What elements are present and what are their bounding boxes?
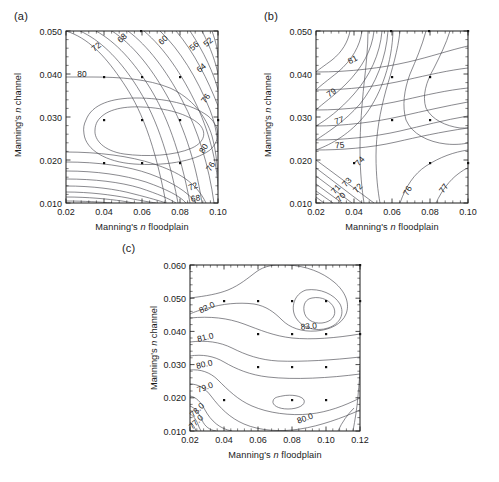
panel-b-contour-labels: 81 79 77 75 74 73 72 71 70 76 77 <box>325 53 451 204</box>
panel-b-xtick-0: 0.02 <box>307 207 325 217</box>
panel-c-x-tick-labels: 0.02 0.04 0.06 0.08 0.10 0.12 <box>181 435 369 445</box>
panel-c-clabel-80: 80.0 <box>195 357 214 371</box>
panel-b-clabel-81: 81 <box>346 53 359 66</box>
panel-a-xtick-2: 0.06 <box>133 207 151 217</box>
panel-b-x-axis-title-pre: Manning's <box>345 222 390 232</box>
panel-b-y-tick-labels: 0.050 0.040 0.030 0.020 0.010 <box>289 27 312 209</box>
panel-c-clabel-83: 83.0 <box>300 320 318 332</box>
panel-a-contours <box>66 31 218 203</box>
panel-a-y-tick-labels: 0.050 0.040 0.030 0.020 0.010 <box>39 27 62 209</box>
panel-c-ytick-3: 0.030 <box>163 360 186 370</box>
panel-a-xtick-0: 0.02 <box>57 207 75 217</box>
panel-b-ytick-2: 0.030 <box>289 113 312 123</box>
panel-c-xtick-0: 0.02 <box>181 435 199 445</box>
panel-c-ticks <box>190 265 360 431</box>
panel-a-ytick-1: 0.040 <box>39 70 62 80</box>
panel-b-clabel-76: 76 <box>401 184 414 197</box>
panel-c-clabel-80-lower: 80.0 <box>296 411 315 426</box>
panel-c-data-points <box>223 264 361 401</box>
panel-c-y-axis-title-pre: Manning's <box>149 346 159 390</box>
panel-b-clabel-75: 75 <box>335 140 346 151</box>
panel-b-x-tick-labels: 0.02 0.04 0.06 0.08 0.10 <box>307 207 477 217</box>
panel-a-ytick-3: 0.020 <box>39 156 62 166</box>
panel-c-xtick-3: 0.08 <box>283 435 301 445</box>
panel-b-plot: 0.050 0.040 0.030 0.020 0.010 0.02 0.04 … <box>250 0 499 240</box>
panel-a-clabel-64: 64 <box>194 61 208 75</box>
panel-b-xtick-4: 0.10 <box>459 207 477 217</box>
panel-a-x-axis-title-post: floodplain <box>146 222 189 232</box>
panel-a-clabel-80-left: 80 <box>77 69 87 79</box>
panel-b-ytick-0: 0.050 <box>289 27 312 37</box>
panel-a-contour-labels: 72 68 60 56 52 64 76 80 80 76 72 68 <box>77 31 217 204</box>
panel-c: (c) Manning's n channel 0.060 0.050 0.04… <box>110 238 400 468</box>
panel-c-y-axis-title-symbol: n <box>149 341 159 346</box>
panel-c-x-axis-title-post: floodplain <box>279 450 322 460</box>
panel-b-y-axis-title: Manning's n channel <box>263 59 273 171</box>
panel-a-y-axis-title-pre: Manning's <box>13 113 23 157</box>
panel-c-clabel-82: 82.0 <box>197 299 216 315</box>
panel-b-x-axis-title: Manning's n floodplain <box>316 222 468 232</box>
panel-b-x-axis-title-post: floodplain <box>396 222 439 232</box>
panel-a-y-axis-title-post: channel <box>13 73 23 108</box>
panel-a-xtick-3: 0.08 <box>171 207 189 217</box>
panel-c-contours <box>190 265 360 431</box>
panel-a-tag: (a) <box>14 10 28 22</box>
panel-b-y-axis-title-pre: Manning's <box>263 113 273 157</box>
panel-a-plot: 0.050 0.040 0.030 0.020 0.010 0.02 0.04 … <box>0 0 250 240</box>
panel-c-x-axis-title: Manning's n floodplain <box>190 450 360 460</box>
panel-c-contour-labels: 82.0 81.0 80.0 79.0 78.0 77.0 83.0 80.0 <box>187 299 318 431</box>
panel-a-ytick-2: 0.030 <box>39 113 62 123</box>
panel-c-ytick-1: 0.050 <box>163 294 186 304</box>
panel-a-ytick-0: 0.050 <box>39 27 62 37</box>
panel-b-ytick-3: 0.020 <box>289 156 312 166</box>
panel-c-xtick-5: 0.12 <box>351 435 369 445</box>
panel-c-ytick-4: 0.020 <box>163 393 186 403</box>
panel-b-xtick-3: 0.08 <box>421 207 439 217</box>
panel-a-x-axis-title-pre: Manning's <box>95 222 140 232</box>
panel-b-y-axis-title-symbol: n <box>263 108 273 113</box>
panel-b-ytick-1: 0.040 <box>289 70 312 80</box>
panel-a-clabel-68-lower: 68 <box>190 192 201 203</box>
panel-b: (b) Manning's n channel 0.050 0.040 0.03… <box>250 0 499 240</box>
panel-c-frame <box>190 265 360 431</box>
panel-a: (a) Manning's n channel 0.050 0.040 0.03… <box>0 0 250 240</box>
panel-c-y-axis-title-post: channel <box>149 306 159 341</box>
panel-c-xtick-4: 0.10 <box>317 435 335 445</box>
panel-a-xtick-4: 0.10 <box>209 207 227 217</box>
panel-c-y-tick-labels: 0.060 0.050 0.040 0.030 0.020 0.010 <box>163 261 186 437</box>
panel-a-xtick-1: 0.04 <box>95 207 113 217</box>
panel-c-tag: (c) <box>122 242 135 254</box>
panel-c-clabel-79: 79.0 <box>196 380 215 395</box>
panel-b-tag: (b) <box>264 10 278 22</box>
panel-a-clabel-76-upper: 76 <box>199 91 213 105</box>
panel-b-xtick-2: 0.06 <box>383 207 401 217</box>
panel-a-clabel-52: 52 <box>201 35 215 49</box>
panel-a-x-tick-labels: 0.02 0.04 0.06 0.08 0.10 <box>57 207 227 217</box>
panel-b-clabel-79: 79 <box>325 86 339 100</box>
panel-c-ytick-2: 0.040 <box>163 327 186 337</box>
panel-a-clabel-72-lower: 72 <box>187 180 200 193</box>
panel-c-y-axis-title: Manning's n channel <box>149 292 159 404</box>
panel-b-clabel-74: 74 <box>353 154 367 168</box>
panel-a-y-axis-title-symbol: n <box>13 108 23 113</box>
panel-a-clabel-72: 72 <box>89 40 103 54</box>
panel-c-ytick-0: 0.060 <box>163 261 186 271</box>
panel-c-xtick-1: 0.04 <box>215 435 233 445</box>
panel-b-clabel-77: 77 <box>333 114 345 126</box>
panel-a-y-axis-title: Manning's n channel <box>13 59 23 171</box>
panel-a-x-axis-title: Manning's n floodplain <box>66 222 218 232</box>
panel-a-clabel-56: 56 <box>187 39 201 53</box>
panel-b-xtick-1: 0.04 <box>345 207 363 217</box>
panel-c-xtick-2: 0.06 <box>249 435 267 445</box>
panel-c-x-axis-title-pre: Manning's <box>228 450 273 460</box>
panel-b-y-axis-title-post: channel <box>263 73 273 108</box>
